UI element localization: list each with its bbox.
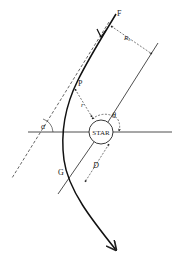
asymptote-line [12,22,109,178]
label-impact-parameter: R₀ [123,34,131,42]
label-r: r [81,101,84,109]
star-label: STAR [92,129,110,137]
label-p: P [78,79,83,88]
label-f: F [117,9,122,18]
label-alpha: α [41,122,46,131]
label-d: D [92,161,99,170]
label-g: G [58,168,64,177]
trajectory-diagram: STAR F R₀ P r θ α D G [0,0,178,264]
label-theta: θ [112,111,116,120]
impact-parameter-arrow [111,26,152,54]
